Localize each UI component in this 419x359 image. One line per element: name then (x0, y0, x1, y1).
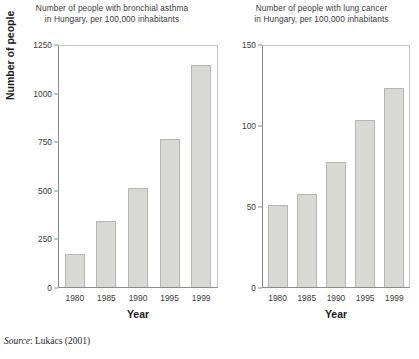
x-tick-label-1995: 1995 (352, 293, 378, 303)
x-tick-label-1999: 1999 (188, 293, 214, 303)
x-tick-label-1990: 1990 (125, 293, 151, 303)
x-tick-label-1995: 1995 (157, 293, 183, 303)
y-tick-mark-1250 (54, 45, 58, 46)
bar-1985 (297, 194, 317, 287)
x-tick-label-1985: 1985 (93, 293, 119, 303)
chart-panel-lung-cancer: Number of people with lung cancer in Hun… (224, 0, 419, 25)
chart-title-lung-cancer: Number of people with lung cancer in Hun… (224, 0, 419, 25)
x-tick-label-1990: 1990 (323, 293, 349, 303)
bar-1990 (128, 188, 148, 287)
y-tick-mark-50 (258, 206, 262, 207)
bar-1995 (160, 139, 180, 287)
x-tick-label-1999: 1999 (381, 293, 407, 303)
source-note: Source: Lukács (2001) (4, 336, 90, 346)
bar-series-asthma (59, 46, 217, 287)
x-tick-label-1985: 1985 (294, 293, 320, 303)
y-tick-mark-500 (54, 190, 58, 191)
y-tick-mark-0 (54, 288, 58, 289)
chart-panel-asthma: Number of people with bronchial asthma i… (0, 0, 224, 25)
bar-1980 (268, 205, 288, 287)
chart-title-lung-cancer-line1: Number of people with lung cancer (224, 3, 419, 14)
plot-area-asthma: 025050075010001250 19801985199019951999 … (58, 45, 218, 288)
y-tick-mark-1000 (54, 93, 58, 94)
x-tick-label-1980: 1980 (62, 293, 88, 303)
y-tick-mark-150 (258, 45, 262, 46)
y-tick-mark-0 (258, 288, 262, 289)
chart-title-lung-cancer-line2: in Hungary, per 100,000 inhabitants (224, 14, 419, 25)
plot-area-lung-cancer: 050100150 19801985199019951999 Year (262, 45, 410, 288)
y-tick-mark-750 (54, 142, 58, 143)
bar-1980 (65, 254, 85, 287)
chart-title-asthma-line1: Number of people with bronchial asthma (0, 3, 224, 14)
bar-1999 (384, 88, 404, 287)
x-axis-ticks-asthma: 19801985199019951999 (59, 288, 217, 303)
source-value: : Lukács (2001) (30, 336, 90, 346)
figure-container: Number of people with bronchial asthma i… (0, 0, 419, 359)
bar-series-lung-cancer (263, 46, 409, 287)
bar-1995 (355, 120, 375, 287)
chart-title-asthma-line2: in Hungary, per 100,000 inhabitants (0, 14, 224, 25)
bar-1985 (96, 221, 116, 287)
bar-1999 (191, 65, 211, 287)
x-axis-label-lung-cancer: Year (262, 308, 410, 320)
source-label: Source (4, 336, 30, 346)
x-axis-ticks-lung-cancer: 19801985199019951999 (263, 288, 409, 303)
y-tick-mark-250 (54, 239, 58, 240)
bar-1990 (326, 162, 346, 287)
y-tick-mark-100 (258, 125, 262, 126)
x-tick-label-1980: 1980 (265, 293, 291, 303)
chart-title-asthma: Number of people with bronchial asthma i… (0, 0, 224, 25)
y-axis-label-asthma: Number of people (4, 11, 16, 100)
x-axis-label-asthma: Year (58, 308, 218, 320)
